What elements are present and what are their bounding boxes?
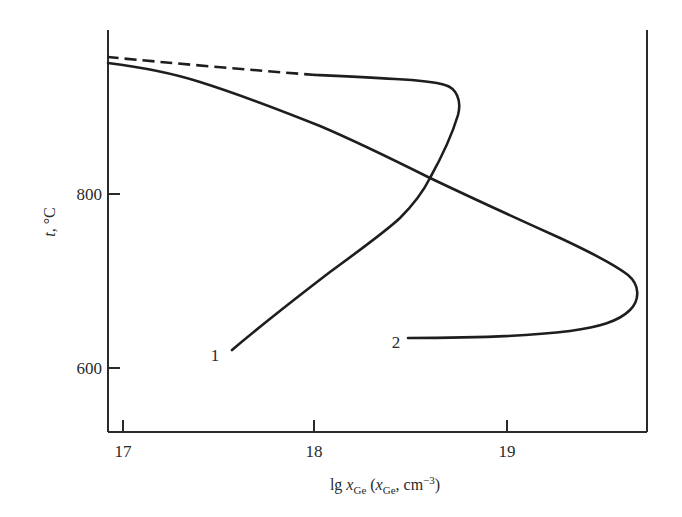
curve-label-2: 2 <box>392 333 401 352</box>
x-axis-main: lg <box>330 476 346 494</box>
x-tick-label-18: 18 <box>306 442 323 461</box>
x-axis-var2: x <box>375 476 383 493</box>
curve-label-1: 1 <box>211 346 220 365</box>
curve-1 <box>232 75 459 350</box>
curve-1-dashed-extension <box>108 57 316 75</box>
x-axis-sub2: Ge <box>383 484 396 496</box>
chart-canvas: 800 600 17 18 19 t, °C lg xGe (xGe, cm−3… <box>0 0 682 517</box>
x-axis-exp: −3 <box>423 474 435 486</box>
y-tick-label-600: 600 <box>77 359 103 378</box>
y-axis-unit: , °C <box>41 207 58 232</box>
x-axis-paren-close: ) <box>435 476 440 494</box>
curve-2 <box>108 63 637 338</box>
x-tick-label-17: 17 <box>115 442 133 461</box>
x-axis-sub: Ge <box>353 484 366 496</box>
x-axis-unit: , cm <box>396 476 424 493</box>
x-axis-var: x <box>345 476 353 493</box>
x-tick-label-19: 19 <box>499 442 516 461</box>
x-axis-label: lg xGe (xGe, cm−3) <box>330 474 440 496</box>
y-axis-label: t, °C <box>41 207 58 237</box>
y-tick-label-800: 800 <box>77 185 103 204</box>
x-axis-paren-open: ( <box>366 476 375 494</box>
